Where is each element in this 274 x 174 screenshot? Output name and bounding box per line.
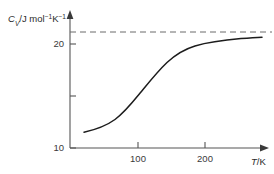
y-tick-label-10: 10 — [53, 142, 64, 153]
x-axis-arrow-icon — [260, 145, 269, 152]
x-tick-label-200: 200 — [197, 153, 213, 164]
cv-curve — [84, 37, 262, 132]
x-caption-unit: /K — [257, 156, 267, 167]
heat-capacity-chart: 10 20 100 200 CV/J mol−1K−1 T/K — [0, 0, 274, 174]
y-tick-label-20: 20 — [53, 38, 64, 49]
x-axis-caption: T/K — [251, 156, 266, 167]
y-caption-unit-main: /J mol — [19, 13, 44, 24]
x-tick-label-100: 100 — [130, 153, 146, 164]
chart-canvas: 10 20 100 200 CV/J mol−1K−1 T/K — [0, 0, 274, 174]
y-axis-caption: CV/J mol−1K−1 — [8, 13, 66, 27]
y-axis-arrow-icon — [67, 10, 74, 19]
y-caption-exponent-2: −1 — [59, 13, 67, 20]
